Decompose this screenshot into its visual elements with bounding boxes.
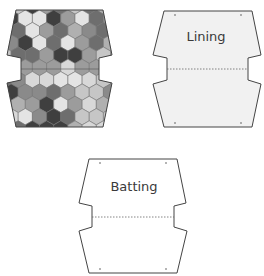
hexagon-patch (0, 121, 11, 137)
hexagon-patch (111, 121, 125, 137)
hexagon-patch (4, 133, 18, 149)
hexagon-patchwork (0, 0, 132, 162)
hexagon-patch (118, 109, 132, 125)
hexagon-patch (103, 133, 117, 149)
hexagon-patch (0, 96, 11, 112)
corner-mark-dot (165, 268, 167, 270)
hexagon-patch (118, 133, 132, 149)
hexagon-patch (111, 72, 125, 88)
hexagon-patch (118, 0, 132, 2)
hexagon-patch (61, 0, 75, 2)
hexagon-patch (118, 10, 132, 26)
hexagon-patch (4, 59, 18, 75)
hexagon-patch (75, 133, 89, 149)
hexagon-patch (0, 22, 11, 38)
corner-mark-dot (99, 162, 101, 164)
hexagon-patch (89, 133, 103, 149)
hexagon-patch (0, 0, 4, 2)
hexagon-patch (32, 0, 46, 2)
hexagon-patch (11, 145, 25, 161)
hexagon-patch (68, 145, 82, 161)
hexagon-patch (89, 0, 103, 2)
hexagon-patch (118, 35, 132, 51)
patchwork-outer-piece (0, 0, 132, 162)
batting-label: Batting (110, 179, 157, 194)
hexagon-patch (75, 0, 89, 2)
corner-mark-dot (99, 268, 101, 270)
hexagon-patch (25, 145, 39, 161)
hexagon-patch (111, 96, 125, 112)
hexagon-patch (0, 84, 4, 100)
hexagon-patch (47, 133, 61, 149)
hexagon-patch (54, 145, 68, 161)
hexagon-patch (18, 133, 32, 149)
hexagon-patch (0, 109, 4, 125)
hexagon-patch (32, 133, 46, 149)
hexagon-patch (103, 59, 117, 75)
corner-mark-dot (165, 162, 167, 164)
hexagon-patch (0, 0, 11, 14)
hexagon-patch (0, 145, 11, 161)
hexagon-patch (111, 47, 125, 63)
hexagon-patch (0, 35, 4, 51)
hexagon-patch (111, 0, 125, 14)
hexagon-patch (111, 22, 125, 38)
hexagon-patch (118, 84, 132, 100)
lining-label: Lining (186, 29, 225, 44)
corner-mark-dot (240, 122, 242, 124)
batting-outline (79, 159, 187, 273)
hexagon-patch (0, 133, 4, 149)
corner-mark-dot (174, 14, 176, 16)
hexagon-patch (118, 59, 132, 75)
hexagon-patch (103, 0, 117, 2)
corner-mark-dot (174, 122, 176, 124)
hexagon-patch (18, 0, 32, 2)
corner-mark-dot (240, 14, 242, 16)
hexagon-patch (61, 133, 75, 149)
hexagon-patch (0, 10, 4, 26)
batting-piece (79, 159, 187, 273)
hexagon-patch (47, 0, 61, 2)
hexagon-patch (40, 145, 54, 161)
hexagon-patch (0, 59, 4, 75)
hexagon-patch (4, 0, 18, 2)
